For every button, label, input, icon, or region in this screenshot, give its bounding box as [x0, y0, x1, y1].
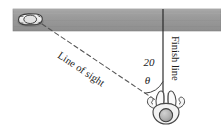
- diagram-canvas: 20 θ Finish line Line of sight: [0, 0, 221, 134]
- road-surface: [13, 9, 221, 31]
- runner: [147, 91, 184, 124]
- road-band: [13, 9, 221, 31]
- car-cabin: [24, 15, 37, 23]
- runner-left-arm: [147, 97, 154, 108]
- angle-label: θ: [145, 74, 151, 86]
- line-of-sight-label: Line of sight: [56, 50, 107, 89]
- runner-right-arm: [178, 97, 185, 108]
- car: [17, 14, 43, 27]
- distance-label: 20: [144, 56, 156, 68]
- road-highlight: [13, 9, 221, 10]
- physics-diagram-figure: 20 θ Finish line Line of sight: [0, 0, 221, 134]
- finish-line-label: Finish line: [170, 36, 181, 81]
- runner-head: [159, 109, 172, 122]
